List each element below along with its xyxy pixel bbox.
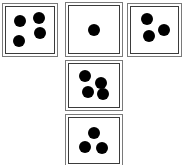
pip-icon <box>158 24 170 36</box>
die-top-left[interactable] <box>2 3 58 57</box>
pip-icon <box>34 27 46 39</box>
pip-icon <box>96 142 108 154</box>
dice-net-canvas <box>0 0 184 165</box>
die-top-right[interactable] <box>127 3 182 57</box>
pip-icon <box>14 15 26 27</box>
pip-icon <box>88 24 100 36</box>
pip-icon <box>143 30 155 42</box>
pip-icon <box>88 127 100 139</box>
die-bottom[interactable] <box>65 114 123 165</box>
pip-icon <box>79 141 91 153</box>
pip-icon <box>79 70 91 82</box>
pip-icon <box>82 86 94 98</box>
die-center-face <box>68 63 120 108</box>
pip-icon <box>33 12 45 24</box>
die-center[interactable] <box>65 60 123 111</box>
pip-icon <box>95 77 107 89</box>
die-top-middle-face <box>68 5 120 54</box>
die-bottom-face <box>68 117 120 164</box>
pip-icon <box>13 35 25 47</box>
die-top-left-face <box>5 6 55 54</box>
pip-icon <box>141 13 153 25</box>
pip-icon <box>97 88 109 100</box>
die-top-middle[interactable] <box>65 2 123 57</box>
die-top-right-face <box>130 6 179 54</box>
